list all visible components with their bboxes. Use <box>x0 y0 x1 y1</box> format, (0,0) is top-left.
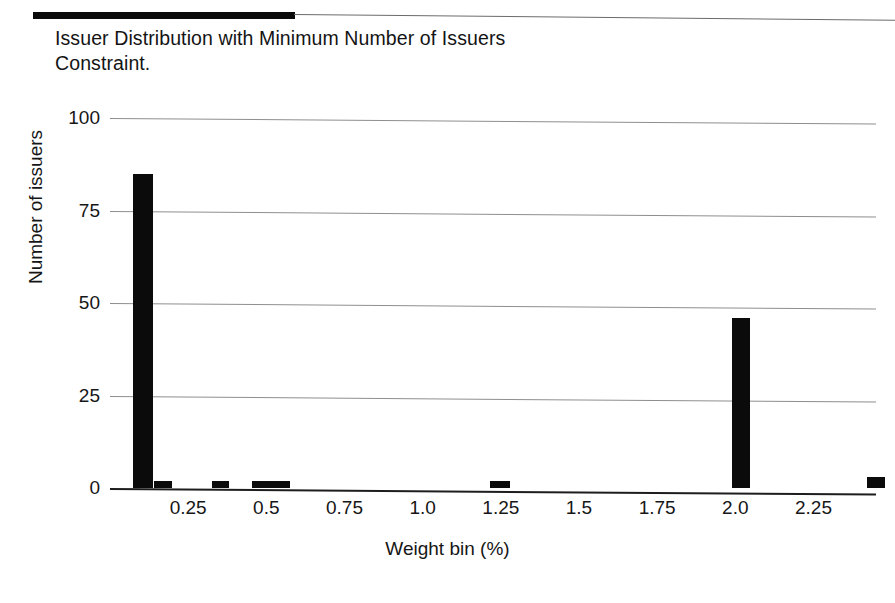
x-tick-label: 0.5 <box>226 497 306 519</box>
x-tick-label: 0.75 <box>304 497 384 519</box>
y-tick-label: 100 <box>54 107 100 129</box>
bars-layer <box>110 118 876 488</box>
x-tick-label: 2.0 <box>695 497 775 519</box>
x-tick-label: 1.25 <box>461 497 541 519</box>
x-axis-title: Weight bin (%) <box>0 538 895 560</box>
chart-page: Issuer Distribution with Minimum Number … <box>0 0 895 603</box>
x-tick-label: 1.75 <box>617 497 697 519</box>
page-title: Issuer Distribution with Minimum Number … <box>55 26 695 76</box>
header-rule-thick <box>33 12 295 19</box>
x-tick-label: 2.25 <box>773 497 853 519</box>
bar <box>212 481 229 488</box>
bar <box>732 318 750 488</box>
y-tick-label: 25 <box>54 385 100 407</box>
x-axis-tick-labels: 0.250.50.751.01.251.51.752.02.25 <box>110 497 876 527</box>
bar <box>252 481 290 488</box>
header-rule-thin <box>294 14 895 21</box>
y-tick-label: 50 <box>54 292 100 314</box>
bar <box>867 477 885 488</box>
x-tick-label: 1.0 <box>383 497 463 519</box>
y-tick-label: 75 <box>54 200 100 222</box>
bar <box>490 481 510 488</box>
y-axis-title: Number of issuers <box>25 97 47 317</box>
bar <box>133 174 153 489</box>
y-tick-label: 0 <box>54 477 100 499</box>
x-tick-label: 1.5 <box>539 497 619 519</box>
x-tick-label: 0.25 <box>148 497 228 519</box>
bar <box>154 481 172 488</box>
y-axis-tick-labels: 0255075100 <box>48 118 100 490</box>
